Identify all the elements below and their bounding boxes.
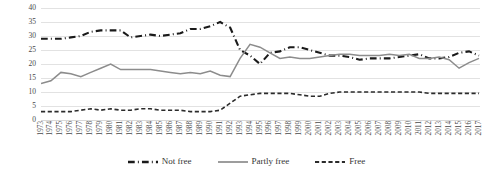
solid-swatch xyxy=(218,158,248,166)
legend-label: Not free xyxy=(162,157,192,166)
legend-item-not-free[interactable]: Not free xyxy=(128,157,192,166)
x-tick-label-1977: 1977 xyxy=(77,121,84,135)
chart-legend: Not freePartly freeFree xyxy=(0,157,493,166)
x-tick-label-2001: 2001 xyxy=(316,121,323,135)
y-tick-label-25: 25 xyxy=(29,46,37,54)
x-tick-label-1998: 1998 xyxy=(286,121,293,135)
plot-area xyxy=(41,8,480,120)
x-tick-label-1982: 1982 xyxy=(127,121,134,135)
y-tick-label-15: 15 xyxy=(29,74,37,82)
x-tick-label-1989: 1989 xyxy=(197,121,204,135)
legend-item-free[interactable]: Free xyxy=(315,157,365,166)
x-tick-label-2017: 2017 xyxy=(476,121,483,135)
x-tick-label-2011: 2011 xyxy=(416,121,423,135)
x-tick-label-2012: 2012 xyxy=(426,121,433,135)
dashed-swatch xyxy=(315,158,345,166)
x-tick-label-1973: 1973 xyxy=(38,121,45,135)
x-tick-label-2003: 2003 xyxy=(336,121,343,135)
x-tick-label-2010: 2010 xyxy=(406,121,413,135)
x-tick-label-2004: 2004 xyxy=(346,121,353,135)
x-tick-label-2007: 2007 xyxy=(376,121,383,135)
x-tick-label-2000: 2000 xyxy=(306,121,313,135)
y-axis: 4035302520151050 xyxy=(0,0,41,128)
x-tick-label-1992: 1992 xyxy=(227,121,234,135)
x-tick-label-1981: 1981 xyxy=(117,121,124,135)
x-tick-label-1974: 1974 xyxy=(47,121,54,135)
series-line-partly-free xyxy=(41,44,479,83)
series-lines xyxy=(41,8,480,120)
y-tick-label-35: 35 xyxy=(29,18,37,26)
y-tick-label-5: 5 xyxy=(32,102,36,110)
series-line-free xyxy=(41,92,479,112)
x-tick-label-1984: 1984 xyxy=(147,121,154,135)
x-tick-label-1988: 1988 xyxy=(187,121,194,135)
x-tick-label-1995: 1995 xyxy=(257,121,264,135)
x-tick-label-2014: 2014 xyxy=(446,121,453,135)
x-tick-label-1990: 1990 xyxy=(207,121,214,135)
x-tick-label-1999: 1999 xyxy=(296,121,303,135)
x-tick-label-2009: 2009 xyxy=(396,121,403,135)
y-tick-label-30: 30 xyxy=(29,32,37,40)
x-tick-label-2008: 2008 xyxy=(386,121,393,135)
legend-label: Partly free xyxy=(252,157,290,166)
dash-dot-swatch xyxy=(128,158,158,166)
x-tick-label-1985: 1985 xyxy=(157,121,164,135)
x-tick-label-1991: 1991 xyxy=(217,121,224,135)
y-tick-label-40: 40 xyxy=(29,4,37,12)
series-line-not-free xyxy=(41,22,479,64)
x-tick-label-2016: 2016 xyxy=(466,121,473,135)
x-tick-label-2006: 2006 xyxy=(366,121,373,135)
x-tick-label-1997: 1997 xyxy=(276,121,283,135)
y-tick-label-20: 20 xyxy=(29,60,37,68)
x-tick-label-2005: 2005 xyxy=(356,121,363,135)
y-tick-label-0: 0 xyxy=(32,116,36,124)
x-tick-label-2002: 2002 xyxy=(326,121,333,135)
x-tick-label-1986: 1986 xyxy=(167,121,174,135)
freedom-status-line-chart: 4035302520151050 19731974197519761977197… xyxy=(0,0,493,176)
y-tick-label-10: 10 xyxy=(29,88,37,96)
x-tick-label-2013: 2013 xyxy=(436,121,443,135)
legend-item-partly-free[interactable]: Partly free xyxy=(218,157,290,166)
x-axis: 1973197419751976197719781979198019811982… xyxy=(41,120,480,156)
x-tick-label-1978: 1978 xyxy=(87,121,94,135)
x-tick-label-1994: 1994 xyxy=(247,121,254,135)
x-tick-label-1993: 1993 xyxy=(237,121,244,135)
x-tick-label-1987: 1987 xyxy=(177,121,184,135)
x-tick-label-1976: 1976 xyxy=(67,121,74,135)
x-tick-label-2015: 2015 xyxy=(456,121,463,135)
x-tick-label-1983: 1983 xyxy=(137,121,144,135)
x-tick-label-1996: 1996 xyxy=(266,121,273,135)
x-tick-label-1980: 1980 xyxy=(107,121,114,135)
legend-label: Free xyxy=(349,157,365,166)
x-tick-label-1979: 1979 xyxy=(97,121,104,135)
x-tick-label-1975: 1975 xyxy=(57,121,64,135)
